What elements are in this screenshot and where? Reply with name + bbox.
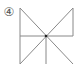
center-point [45,35,48,38]
geometry-figure [0,0,79,65]
